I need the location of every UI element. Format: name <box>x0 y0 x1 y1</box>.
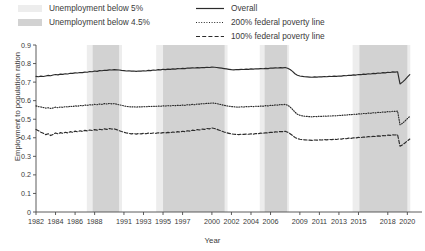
x-axis-tick-label: 1991 <box>116 217 132 226</box>
chart-legend: Unemployment below 5% Unemployment below… <box>0 2 425 42</box>
shaded-band <box>265 45 287 212</box>
legend-label-below-45: Unemployment below 4.5% <box>49 18 150 27</box>
x-axis-tick-label: 2011 <box>312 217 327 226</box>
y-axis-tick-label: 0.7 <box>21 78 31 87</box>
x-axis-tick-label: 2020 <box>399 217 415 226</box>
x-axis-label: Year <box>0 236 425 245</box>
y-axis-tick-label: 0 <box>27 208 31 217</box>
x-axis-tick-label: 2000 <box>204 217 220 226</box>
x-axis-tick-label: 2015 <box>350 217 366 226</box>
x-axis-tick-label: 2002 <box>223 217 239 226</box>
legend-item-series-overall: Overall <box>196 2 325 15</box>
shaded-band <box>359 45 407 212</box>
legend-label-200fpl: 200% federal poverty line <box>231 18 325 27</box>
legend-item-series-200fpl: 200% federal poverty line <box>196 16 325 29</box>
y-axis-tick-label: 0.8 <box>21 59 31 68</box>
x-axis-tick-label: 1982 <box>28 217 44 226</box>
x-axis-tick-label: 1988 <box>87 217 103 226</box>
y-axis-tick-label: 0.6 <box>21 96 31 105</box>
x-axis-tick-label: 2009 <box>292 217 308 226</box>
x-axis-tick-label: 1986 <box>67 217 83 226</box>
legend-line-dotted-icon <box>196 18 224 27</box>
y-axis-tick-label: 0.3 <box>21 152 31 161</box>
x-axis-tick-label: 1997 <box>175 217 191 226</box>
legend-label-below-5: Unemployment below 5% <box>49 4 143 13</box>
legend-item-band-below-5: Unemployment below 5% <box>18 2 150 15</box>
legend-column-series: Overall 200% federal poverty line 100% f… <box>196 2 325 44</box>
y-axis-tick-label: 0.4 <box>21 133 31 142</box>
x-axis-tick-label: 2018 <box>380 217 396 226</box>
legend-item-band-below-45: Unemployment below 4.5% <box>18 16 150 29</box>
x-axis-tick-label: 1984 <box>48 217 64 226</box>
x-axis-tick-label: 2004 <box>243 217 259 226</box>
legend-label-overall: Overall <box>231 4 257 13</box>
chart-canvas: 00.10.20.30.40.50.60.70.80.9198219841986… <box>0 40 425 236</box>
x-axis-tick-label: 1995 <box>155 217 171 226</box>
legend-line-solid-icon <box>196 4 224 13</box>
x-axis-tick-label: 1993 <box>135 217 151 226</box>
y-axis-tick-label: 0.2 <box>21 170 31 179</box>
x-axis-tick-label: 2006 <box>263 217 279 226</box>
legend-swatch-below-45 <box>18 19 42 26</box>
y-axis-tick-label: 0.1 <box>21 189 31 198</box>
y-axis-tick-label: 0.9 <box>21 41 31 50</box>
legend-swatch-below-5 <box>18 5 42 12</box>
legend-column-bands: Unemployment below 5% Unemployment below… <box>18 2 150 30</box>
chart-page: Unemployment below 5% Unemployment below… <box>0 0 425 251</box>
plot-area: Employment to population ration 00.10.20… <box>0 40 425 251</box>
x-axis-tick-label: 2013 <box>331 217 347 226</box>
y-axis-tick-label: 0.5 <box>21 115 31 124</box>
